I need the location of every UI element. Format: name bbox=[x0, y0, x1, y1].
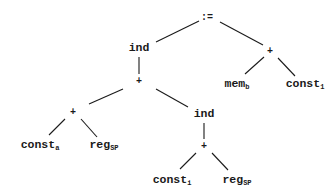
edge-plus-low-reg-sp-2 bbox=[212, 153, 228, 170]
node-assign: := bbox=[201, 12, 213, 23]
edge-plus-mid-plus-left bbox=[89, 89, 123, 104]
node-const-a: consta bbox=[21, 138, 61, 152]
tree-nodes: := ind + + memb const1 + ind consta regS… bbox=[21, 12, 325, 187]
node-const-1: const1 bbox=[286, 77, 325, 91]
edge-plus-right-const-1 bbox=[278, 58, 295, 76]
node-const-i: consti bbox=[153, 173, 192, 187]
expression-tree: := ind + + memb const1 + ind consta regS… bbox=[0, 0, 335, 191]
node-reg-sp-2: regSP bbox=[222, 173, 251, 187]
edge-plus-left-const-a bbox=[49, 119, 65, 135]
edge-plus-low-const-i bbox=[180, 153, 196, 169]
node-plus-low: + bbox=[201, 141, 207, 152]
node-reg-sp-1: regSP bbox=[89, 138, 118, 152]
edge-plus-mid-ind-low bbox=[156, 89, 188, 107]
edge-root-plus-right bbox=[220, 22, 263, 45]
tree-edges bbox=[49, 21, 295, 170]
node-plus-right: + bbox=[267, 46, 273, 57]
node-plus-mid: + bbox=[136, 76, 142, 87]
edge-plus-left-reg-sp-1 bbox=[81, 119, 97, 137]
node-ind-top: ind bbox=[129, 41, 150, 54]
node-plus-left: + bbox=[70, 107, 76, 118]
node-ind-low: ind bbox=[194, 107, 215, 120]
node-mem-b: memb bbox=[225, 77, 250, 91]
edge-plus-right-mem-b bbox=[245, 57, 264, 74]
edge-root-ind-top bbox=[156, 21, 199, 42]
